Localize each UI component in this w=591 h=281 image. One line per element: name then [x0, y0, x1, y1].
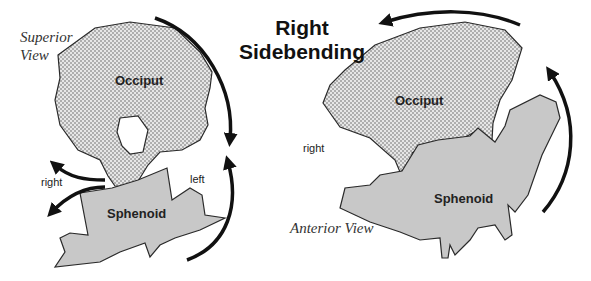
title-line-1: Right [238, 16, 366, 40]
right-right-label: right [303, 142, 324, 154]
title-line-2: Sidebending [238, 40, 366, 64]
right-arrow-occiput-rotation [385, 12, 520, 25]
diagram-stage: Right Sidebending Superior View Occiput … [0, 0, 591, 281]
right-occiput-label: Occiput [395, 93, 443, 108]
diagram-title: Right Sidebending [238, 16, 366, 64]
superior-view-label: Superior View [20, 28, 73, 64]
anterior-view-label: Anterior View [290, 219, 373, 237]
left-right-label: right [41, 176, 62, 188]
superior-view-line-2: View [20, 46, 73, 64]
left-left-label: left [190, 173, 205, 185]
right-sphenoid-label: Sphenoid [434, 191, 493, 206]
left-sphenoid-label: Sphenoid [107, 206, 166, 221]
left-arrow-right-upper [55, 165, 105, 180]
left-occiput-label: Occiput [115, 73, 163, 88]
left-occiput-shape [55, 22, 212, 188]
superior-view-line-1: Superior [20, 28, 73, 46]
